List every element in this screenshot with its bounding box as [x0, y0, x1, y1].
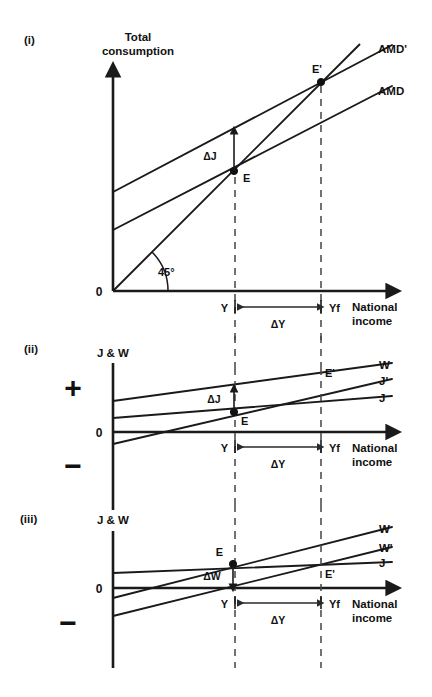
panel-i-y-axis-label-line2: consumption [102, 45, 174, 57]
panel-i-delta-y-label: ΔY [271, 318, 286, 330]
panel-i-curve-amd [113, 86, 392, 230]
panel-i-angle-label: 45° [158, 266, 175, 278]
panel-iii-curve-label-w-prime: W' [379, 542, 393, 554]
panel-iii: (iii) J & W 0 − W W' J E E' ΔW Y Yf ΔY N… [20, 513, 397, 668]
panel-ii-delta-y-label: ΔY [271, 458, 286, 470]
panel-ii-origin-label: 0 [96, 426, 103, 440]
panel-ii-xtick-label-yf: Yf [329, 442, 340, 454]
panel-i-y-axis-label-line1: Total [125, 31, 152, 43]
panel-ii-y-axis-label: J & W [97, 347, 129, 359]
diagram-svg: (i) Total consumption 0 45° AMD' AMD E E… [0, 0, 432, 697]
panel-iii-point-label-e: E [216, 546, 223, 558]
panel-iii-minus-sign: − [59, 606, 77, 639]
panel-iii-curve-label-w: W [379, 523, 390, 535]
panel-ii: (ii) J & W 0 + − W J' J E E' ΔJ Y Yf ΔY [24, 343, 397, 510]
panel-ii-curve-j-prime [113, 379, 392, 444]
panel-i-point-e-prime [317, 78, 324, 85]
panel-ii-point-label-e-prime: E' [325, 367, 335, 379]
panel-ii-delta-j-label: ΔJ [207, 393, 221, 405]
panel-ii-curve-label-w: W [379, 359, 390, 371]
panel-i-label: (i) [24, 34, 35, 46]
panel-iii-curve-j [113, 562, 392, 573]
panel-ii-point-label-e: E [241, 415, 248, 427]
panel-ii-label: (ii) [24, 343, 38, 355]
panel-ii-x-axis-label-line1: National [352, 442, 397, 454]
panel-iii-origin-label: 0 [96, 582, 103, 596]
panel-i-delta-j-label: ΔJ [203, 150, 217, 162]
panel-ii-x-axis-label-line2: income [352, 456, 392, 468]
panel-i-xtick-label-yf: Yf [329, 302, 340, 314]
panel-i-x-axis-label-line1: National [352, 301, 397, 313]
panel-i-point-label-e: E [243, 172, 250, 184]
panel-i-curve-label-amd: AMD [378, 85, 404, 97]
panel-iii-x-axis-label-line1: National [352, 598, 397, 610]
panel-i: (i) Total consumption 0 45° AMD' AMD E E… [24, 31, 407, 340]
panel-iii-point-label-e-prime: E' [325, 568, 335, 580]
panel-ii-curve-j [113, 396, 392, 418]
panel-iii-delta-w-label: ΔW [203, 570, 221, 582]
panel-iii-curve-label-j: J [379, 557, 385, 569]
panel-ii-curve-label-j: J [379, 392, 385, 404]
panel-ii-plus-sign: + [64, 371, 82, 404]
panel-ii-minus-sign: − [64, 449, 82, 482]
economics-diagram-figure: (i) Total consumption 0 45° AMD' AMD E E… [0, 0, 432, 697]
panel-i-origin-label: 0 [96, 285, 103, 299]
panel-iii-xtick-label-yf: Yf [329, 598, 340, 610]
panel-iii-xtick-label-y: Y [221, 598, 229, 610]
panel-iii-delta-y-label: ΔY [271, 614, 286, 626]
panel-iii-x-axis-label-line2: income [352, 612, 392, 624]
panel-ii-xtick-label-y: Y [221, 442, 229, 454]
panel-ii-curve-label-j-prime: J' [379, 375, 388, 387]
panel-ii-curve-w [113, 363, 392, 401]
panel-i-curve-amd-prime [113, 45, 392, 192]
panel-iii-curve-w-prime [113, 547, 392, 616]
panel-i-xtick-label-y: Y [221, 302, 229, 314]
panel-iii-label: (iii) [20, 513, 37, 525]
panel-i-curve-label-amd-prime: AMD' [378, 43, 407, 55]
panel-i-x-axis-label-line2: income [352, 315, 392, 327]
panel-i-point-label-e-prime: E' [312, 63, 322, 75]
panel-iii-y-axis-label: J & W [97, 514, 129, 526]
